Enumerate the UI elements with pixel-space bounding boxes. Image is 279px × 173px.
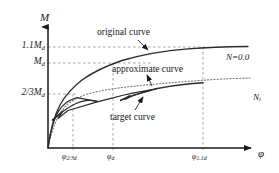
y-tick-md-main: M bbox=[34, 56, 42, 66]
annotation-leader-lines bbox=[135, 40, 152, 110]
vertical-guide-lines bbox=[73, 47, 203, 150]
leader-target-curve bbox=[135, 97, 143, 110]
x-tick-phid-sub: d bbox=[111, 155, 114, 161]
x-tick-phi11d: φ1.1d bbox=[192, 153, 207, 162]
y-tick-md-sub: d bbox=[42, 60, 45, 67]
x-tick-phid: φd bbox=[107, 153, 114, 162]
x-tick-phi11d-sub: 1.1d bbox=[196, 155, 206, 161]
y-tick-1p1md: 1.1Md bbox=[5, 41, 45, 51]
y-tick-23md: 2/3Md bbox=[5, 88, 45, 98]
hysteresis-loop-first bbox=[52, 98, 98, 121]
curve-label-n-zero-main: N=0.0 bbox=[226, 52, 249, 62]
annotation-approximate-curve: approximate curve bbox=[112, 65, 183, 75]
y-tick-1p1md-main: 1.1M bbox=[22, 40, 42, 50]
y-axis-label: M bbox=[40, 12, 49, 23]
curve-label-n-i-sub: i bbox=[259, 95, 261, 102]
x-tick-phi23d: φ2/3d bbox=[62, 153, 77, 162]
y-tick-23md-sub: d bbox=[42, 91, 45, 98]
approximate-curve-mid-segment bbox=[98, 92, 141, 102]
y-tick-1p1md-sub: d bbox=[42, 44, 45, 51]
annotation-target-curve: target curve bbox=[110, 113, 155, 123]
curve-label-n-i: Ni bbox=[253, 93, 261, 103]
leader-original-curve bbox=[138, 40, 148, 50]
x-axis-label: φ bbox=[258, 148, 264, 159]
curve-label-n-zero: N=0.0 bbox=[226, 53, 249, 63]
y-tick-md: Md bbox=[5, 57, 45, 67]
annotation-original-curve: original curve bbox=[97, 28, 150, 38]
moment-curvature-figure: M φ 1.1Md Md 2/3Md φ2/3d φd φ1.1d origin… bbox=[0, 0, 279, 173]
x-tick-phi23d-sub: 2/3d bbox=[66, 155, 76, 161]
axes bbox=[48, 27, 251, 148]
y-tick-23md-main: 2/3M bbox=[22, 87, 42, 97]
